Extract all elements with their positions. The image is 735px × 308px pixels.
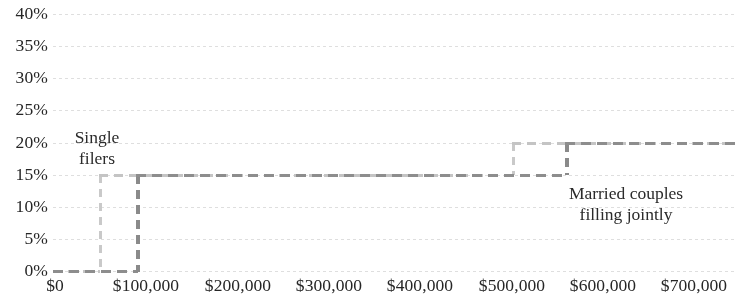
single-filers-riser-15pct bbox=[99, 175, 102, 271]
married-couples-segment-0pct bbox=[53, 270, 138, 273]
x-tick-200000: $200,000 bbox=[205, 276, 271, 294]
gridline-40 bbox=[53, 14, 735, 15]
y-tick-20: 20% bbox=[2, 134, 48, 152]
gridline-25 bbox=[53, 110, 735, 111]
y-tick-5: 5% bbox=[2, 230, 48, 248]
y-axis: 40% 35% 30% 25% 20% 15% 10% 5% 0% bbox=[0, 0, 48, 308]
annotation-single-filers-line1: Single bbox=[62, 127, 132, 148]
x-tick-500000: $500,000 bbox=[479, 276, 545, 294]
x-tick-100000: $100,000 bbox=[113, 276, 179, 294]
x-tick-300000: $300,000 bbox=[296, 276, 362, 294]
annotation-married-couples-line1: Married couples bbox=[545, 183, 707, 204]
x-tick-400000: $400,000 bbox=[387, 276, 453, 294]
y-tick-30: 30% bbox=[2, 69, 48, 87]
y-tick-40: 40% bbox=[2, 5, 48, 23]
annotation-married-couples: Married couples filling jointly bbox=[545, 183, 707, 225]
x-tick-0: $0 bbox=[46, 276, 64, 294]
x-tick-700000: $700,000 bbox=[661, 276, 727, 294]
y-tick-35: 35% bbox=[2, 37, 48, 55]
y-tick-0: 0% bbox=[2, 262, 48, 280]
married-couples-segment-15pct bbox=[136, 174, 567, 177]
y-tick-10: 10% bbox=[2, 198, 48, 216]
married-couples-riser-20pct bbox=[565, 143, 569, 175]
y-tick-15: 15% bbox=[2, 166, 48, 184]
tax-rate-step-chart: 40% 35% 30% 25% 20% 15% 10% 5% 0% $0 $10… bbox=[0, 0, 735, 308]
single-filers-riser-20pct bbox=[512, 143, 515, 175]
annotation-married-couples-line2: filling jointly bbox=[545, 204, 707, 225]
annotation-single-filers-line2: filers bbox=[62, 148, 132, 169]
y-tick-25: 25% bbox=[2, 101, 48, 119]
gridline-35 bbox=[53, 46, 735, 47]
annotation-single-filers: Single filers bbox=[62, 127, 132, 169]
x-tick-600000: $600,000 bbox=[570, 276, 636, 294]
gridline-5 bbox=[53, 239, 735, 240]
married-couples-riser-15pct bbox=[136, 175, 140, 272]
gridline-30 bbox=[53, 78, 735, 79]
plot-area bbox=[53, 0, 735, 275]
gridline-0 bbox=[53, 271, 735, 272]
married-couples-segment-20pct bbox=[565, 142, 735, 145]
